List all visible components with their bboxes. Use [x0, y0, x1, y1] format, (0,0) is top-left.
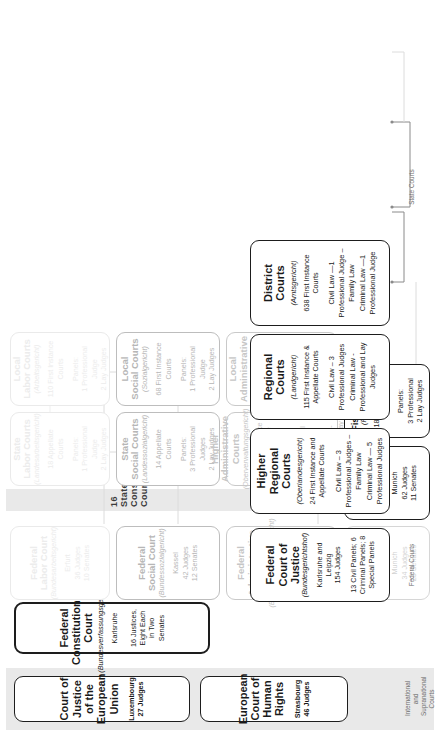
- rail-label-international: International and Supranational Courts: [404, 682, 436, 716]
- ovg-german: (Oberverwaltungsgericht): [242, 409, 250, 490]
- sg-title: Local Social Courts: [120, 338, 141, 399]
- echr-meta: Strasbourg 46 Judges: [293, 680, 312, 718]
- ag-civil-law: Civil Law —1 Professional Judge – Family…: [327, 246, 357, 320]
- box-local-labor-courts[interactable]: Local Labor Courts (Arbeitsgericht) 110 …: [10, 332, 110, 406]
- bverfg-meta: Karlsruhe 16 Justices, Eight Each in Two…: [110, 609, 166, 647]
- lag-panel: Panels: 1 Professional Judge 2 Lay Judge…: [71, 418, 108, 480]
- lg-title: Regional Courts (Landgericht): [262, 340, 299, 414]
- lg-civil-law: Civil Law – 3 Professional Judges: [327, 340, 347, 414]
- bag-german: (Bundesarbeitsgericht): [50, 527, 58, 599]
- box-district-courts[interactable]: District Courts (Amtsgericht)638 First I…: [250, 240, 390, 326]
- bfh-meta: Munich 62 Judges 11 Senates: [390, 465, 418, 501]
- box-federal-court-of-justice[interactable]: Federal Court of Justice (Bundesgerichts…: [250, 528, 390, 602]
- header-box-federal-constitutional-court[interactable]: Federal Constitutional Court (Bundesverf…: [14, 602, 210, 654]
- box-regional-courts[interactable]: Regional Courts (Landgericht)115 First I…: [250, 334, 390, 420]
- state-constitutional-courts-label: 16 State Constitutional Courts: [110, 493, 150, 507]
- olg-title: Higher Regional Courts (Oberlandesgerich…: [255, 434, 304, 508]
- bverfg-title: Federal Constitutional Court: [58, 591, 95, 665]
- olg-meta: 24 First Instance and Appellate Courts: [308, 434, 327, 508]
- bag-meta: Erfurt 36 Judges 10 Senates: [63, 545, 91, 581]
- cjeu-title: Court of Justice of the European Union: [58, 674, 120, 725]
- arbg-german: (Arbeitsgericht): [33, 345, 41, 394]
- lsg-meta: 14 Appellate Courts: [154, 418, 173, 480]
- header-box-cjeu[interactable]: Court of Justice of the European Union L…: [14, 676, 190, 722]
- lsg-title: State Social Courts: [120, 418, 141, 479]
- rail-label-federal: Federal Courts: [408, 540, 416, 590]
- lg-criminal-law: Criminal Law - Professional and Lay Judg…: [348, 340, 378, 414]
- lag-german: (Landesarbeitsgericht): [33, 413, 41, 485]
- ag-german: (Amtsgericht): [289, 260, 298, 305]
- lsg-german: (Landessozialgericht): [141, 415, 149, 483]
- arbg-title: Local Labor Courts: [12, 339, 33, 399]
- ag-criminal-law: Criminal Law —1 Professional Judge: [358, 246, 378, 320]
- lg-german: (Landgericht): [289, 355, 298, 400]
- olg-civil-law: Civil Law – 3 Professional Judges – Fami…: [334, 434, 364, 508]
- box-federal-social-court[interactable]: Federal Social Court (Bundessozialgerich…: [116, 526, 220, 600]
- box-federal-labor-court[interactable]: Federal Labor Court (Bundesarbeitsgerich…: [10, 526, 110, 600]
- box-higher-regional-courts[interactable]: Higher Regional Courts (Oberlandesgerich…: [250, 428, 390, 514]
- lag-title: State Labor Courts: [12, 419, 33, 479]
- lg-meta: 115 First Instance & Appellate Courts: [302, 340, 321, 414]
- box-local-social-courts[interactable]: Local Social Courts (Sozialgericht) 68 F…: [116, 332, 220, 406]
- bgh-meta: Karlsruhe and Leipzig 154 Judges: [315, 534, 343, 596]
- bsg-meta: Kassel 42 Judges 12 Senates: [171, 545, 199, 581]
- bsg-title: Federal Social Court: [137, 535, 158, 591]
- bag-title: Federal Labor Court: [29, 536, 50, 590]
- fg-panel: Panels: 3 Professional 2 Lay Judges: [396, 378, 424, 424]
- ag-meta: 638 First Instance Courts: [302, 246, 321, 320]
- lag-meta: 18 Appellate Courts: [46, 418, 65, 480]
- bsg-german: (Bundessozialgericht): [158, 528, 166, 597]
- cjeu-meta: Luxembourg 27 Judges: [127, 677, 146, 721]
- arbg-meta: 110 First Instance Courts: [46, 338, 65, 400]
- olg-criminal-law: Criminal Law — 5 Professional Judges: [365, 434, 385, 508]
- sg-panel: Panels: 1 Professional Judge 2 Lay Judge…: [179, 338, 216, 400]
- header-box-echr[interactable]: European Court of Human Rights Strasbour…: [200, 676, 348, 722]
- echr-title: European Court of Human Rights: [237, 674, 286, 725]
- ag-title: District Courts (Amtsgericht): [262, 246, 299, 320]
- box-state-social-courts[interactable]: State Social Courts (Landessozialgericht…: [116, 412, 220, 486]
- diagram-canvas: Court of Justice of the European Union L…: [0, 0, 446, 752]
- olg-german: (Oberlandesgericht): [295, 437, 304, 504]
- rail-label-state: State Courts: [408, 162, 416, 212]
- bgh-detail: 13 Civil Panels; 6 Criminal Panels; 8 Sp…: [349, 534, 376, 596]
- box-state-labor-courts[interactable]: State Labor Courts (Landesarbeitsgericht…: [10, 412, 110, 486]
- sg-german: (Sozialgericht): [141, 346, 149, 392]
- bgh-german: (Bundesgerichtshof): [301, 533, 309, 597]
- ovg-title: Higher Administrative Courts: [210, 416, 242, 482]
- sg-meta: 68 First Instance Courts: [154, 338, 173, 400]
- bgh-title: Federal Court of Justice: [264, 534, 301, 596]
- arbg-panel: Panels: 1 Professional Judge 2 Lay Judge…: [71, 338, 108, 400]
